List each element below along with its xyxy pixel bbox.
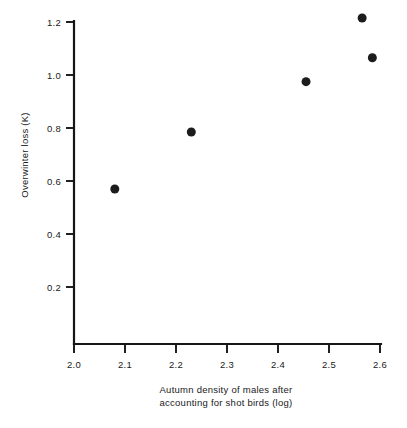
plot-canvas: 1.2 1.0 0.8 0.6 0.4 0.2 2.0 2.1 2.2 2.3 … xyxy=(0,0,407,428)
x-tick-label-2.5: 2.5 xyxy=(322,359,336,370)
x-tick-label-2.1: 2.1 xyxy=(118,359,132,370)
x-axis-tick-labels: 2.0 2.1 2.2 2.3 2.4 2.5 2.6 xyxy=(67,359,387,370)
y-axis-ticks xyxy=(66,22,74,287)
y-axis-tick-labels: 1.2 1.0 0.8 0.6 0.4 0.2 xyxy=(47,17,61,293)
data-point xyxy=(302,77,311,86)
y-tick-label-1.2: 1.2 xyxy=(47,17,61,28)
x-tick-label-2.0: 2.0 xyxy=(67,359,81,370)
x-axis-title-line-2: accounting for shot birds (log) xyxy=(160,397,293,408)
x-tick-label-2.3: 2.3 xyxy=(220,359,234,370)
scatter-plot-figure: 1.2 1.0 0.8 0.6 0.4 0.2 2.0 2.1 2.2 2.3 … xyxy=(0,0,407,428)
y-tick-label-0.4: 0.4 xyxy=(47,229,61,240)
data-point xyxy=(187,127,196,136)
data-point xyxy=(110,184,119,193)
x-axis-ticks xyxy=(74,344,380,353)
x-tick-label-2.2: 2.2 xyxy=(169,359,183,370)
data-points-layer xyxy=(110,14,377,194)
x-tick-label-2.6: 2.6 xyxy=(373,359,387,370)
data-point xyxy=(368,53,377,62)
data-point xyxy=(358,14,367,23)
y-tick-label-0.8: 0.8 xyxy=(47,123,61,134)
x-tick-label-2.4: 2.4 xyxy=(271,359,285,370)
y-tick-label-0.6: 0.6 xyxy=(47,176,61,187)
y-tick-label-0.2: 0.2 xyxy=(47,282,61,293)
y-axis-title: Overwinter loss (K) xyxy=(19,112,30,198)
y-tick-label-1.0: 1.0 xyxy=(47,70,61,81)
x-axis-title-line-1: Autumn density of males after xyxy=(160,384,293,395)
